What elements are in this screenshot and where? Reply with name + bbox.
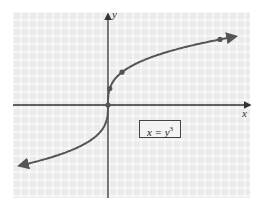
data-point bbox=[105, 102, 110, 107]
graph-canvas bbox=[0, 0, 263, 208]
data-point bbox=[217, 37, 222, 42]
y-axis-label: y bbox=[112, 8, 117, 20]
equation-lhs: x = y bbox=[147, 126, 170, 138]
equation-exponent: 3 bbox=[170, 125, 174, 133]
equation-label: x = y3 bbox=[139, 120, 181, 138]
data-point bbox=[107, 86, 112, 91]
x-axis-label: x bbox=[242, 107, 247, 119]
data-point bbox=[119, 70, 124, 75]
